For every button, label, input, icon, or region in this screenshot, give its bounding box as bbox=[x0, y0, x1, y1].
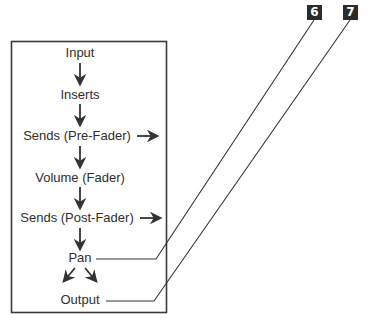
callout-7-badge: 7 bbox=[343, 5, 358, 20]
stage-sends-post-fader-label: Sends (Post-Fader) bbox=[20, 211, 133, 225]
stage-pan-label: Pan bbox=[68, 251, 91, 265]
stage-output-label: Output bbox=[60, 293, 99, 307]
split-left-arrow-icon bbox=[64, 268, 75, 281]
callout-6-badge: 6 bbox=[307, 5, 322, 20]
stage-input-label: Input bbox=[66, 46, 95, 60]
stage-volume-fader-label: Volume (Fader) bbox=[35, 171, 125, 185]
stage-inserts-label: Inserts bbox=[60, 88, 99, 102]
split-right-arrow-icon bbox=[85, 268, 96, 281]
stage-sends-pre-fader-label: Sends (Pre-Fader) bbox=[23, 129, 131, 143]
diagram-graphics bbox=[0, 0, 373, 322]
signal-flow-diagram: Input Inserts Sends (Pre-Fader) Volume (… bbox=[0, 0, 373, 322]
